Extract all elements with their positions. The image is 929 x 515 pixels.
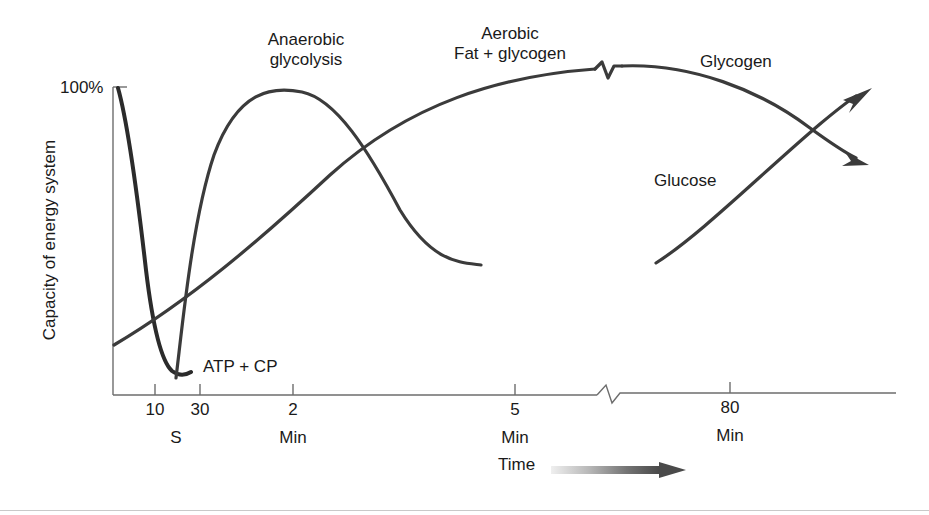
annotation-aerobic: Aerobic Fat + glycogen xyxy=(430,24,590,64)
bottom-divider xyxy=(0,510,929,511)
annotation-anaerobic-line1: Anaerobic xyxy=(246,30,366,50)
arrowhead-glucose xyxy=(843,88,872,113)
curve-break-marker xyxy=(595,62,622,78)
time-arrow-head xyxy=(659,462,686,478)
annotation-atp-cp: ATP + CP xyxy=(203,357,277,377)
chart-canvas xyxy=(0,0,929,515)
curve-glycogen xyxy=(622,66,856,158)
x-unit-label-min-2: Min xyxy=(273,428,313,448)
x-tick-label-30: 30 xyxy=(180,400,220,420)
figure-container: Capacity of energy system 100% Anaerobic… xyxy=(0,0,929,515)
x-tick-label-80: 80 xyxy=(710,398,750,418)
x-axis-title: Time xyxy=(498,455,535,475)
x-tick-label-2: 2 xyxy=(273,400,313,420)
x-tick-label-5: 5 xyxy=(495,400,535,420)
x-unit-label-seconds: S xyxy=(156,428,196,448)
annotation-glycogen: Glycogen xyxy=(700,52,772,72)
annotation-aerobic-line1: Aerobic xyxy=(430,24,590,44)
annotation-anaerobic-glycolysis: Anaerobic glycolysis xyxy=(246,30,366,70)
x-tick-label-10: 10 xyxy=(135,400,175,420)
x-unit-label-min-5: Min xyxy=(495,428,535,448)
annotation-glucose: Glucose xyxy=(654,171,716,191)
y-axis-title: Capacity of energy system xyxy=(40,110,60,370)
x-unit-label-min-80: Min xyxy=(710,426,750,446)
y-axis-max-label: 100% xyxy=(60,78,103,98)
time-arrow-shaft xyxy=(551,466,659,474)
annotation-aerobic-line2: Fat + glycogen xyxy=(430,44,590,64)
curve-anaerobic-glycolysis xyxy=(176,90,481,378)
x-axis-break-marker xyxy=(597,385,631,403)
annotation-anaerobic-line2: glycolysis xyxy=(246,50,366,70)
